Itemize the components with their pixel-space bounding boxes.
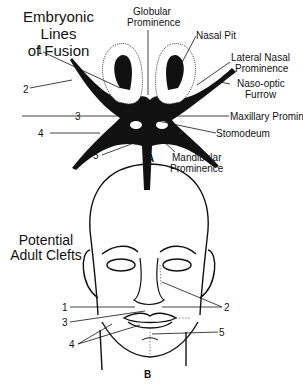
panel-b-number-2: 2 bbox=[224, 302, 230, 313]
panel-b-title: Potential Adult Clefts bbox=[4, 233, 88, 263]
panel-a-number-4: 4 bbox=[38, 128, 44, 139]
right-eye bbox=[163, 259, 191, 271]
label-naso-optic-furrow: Naso-optic Furrow bbox=[237, 78, 285, 100]
panel-a-number-1: 1 bbox=[37, 45, 43, 56]
panel-a-number-5: 5 bbox=[93, 150, 99, 161]
left-maxillary-notch bbox=[130, 121, 142, 129]
label-lateral-nasal-prominence: Lateral Nasal Prominence bbox=[231, 52, 290, 74]
panel-b-title-line1: Potential bbox=[4, 233, 88, 248]
panel-b-number-4: 4 bbox=[69, 339, 75, 350]
right-eyebrow bbox=[160, 246, 196, 254]
label-mandibular-prominence: Mandibular Prominence bbox=[170, 152, 223, 174]
neck-left bbox=[100, 330, 102, 370]
panel-a-number-3: 3 bbox=[75, 111, 81, 122]
label-nasal-pit: Nasal Pit bbox=[196, 30, 236, 41]
panel-b-number-3: 3 bbox=[62, 317, 68, 328]
label-stomodeum: Stomodeum bbox=[216, 128, 270, 139]
panel-a-number-2: 2 bbox=[23, 84, 29, 95]
label-globular-prominence: Globular Prominence bbox=[127, 6, 177, 28]
label-maxillary-prominence: Maxillary Prominence bbox=[230, 111, 303, 122]
left-eye bbox=[107, 259, 135, 271]
panel-b-number-1: 1 bbox=[62, 302, 68, 313]
nose bbox=[134, 258, 164, 305]
panel-a-title-line2: of Fusion bbox=[6, 42, 111, 59]
left-eyebrow bbox=[102, 246, 138, 254]
panel-b-number-5: 5 bbox=[219, 327, 225, 338]
panel-a-title: Embryonic Lines of Fusion bbox=[6, 8, 111, 59]
panel-a-letter: A bbox=[147, 153, 154, 164]
panel-b-title-line2: Adult Clefts bbox=[4, 248, 88, 263]
panel-a-title-line1: Embryonic Lines bbox=[6, 8, 111, 42]
cleft-line-2 bbox=[160, 265, 161, 285]
panel-b-letter: B bbox=[144, 369, 151, 380]
upper-lip bbox=[124, 313, 176, 322]
